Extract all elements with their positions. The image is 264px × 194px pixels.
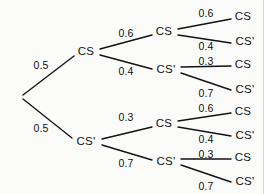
prob-stage1-lower: 0.5 — [34, 123, 49, 134]
prob-stage3-b1-lower: 0.4 — [199, 41, 214, 52]
prob-stage3-b3-lower: 0.4 — [199, 134, 214, 145]
node-stage2-csp-csp: CS' — [157, 156, 176, 168]
prob-stage3-b1-upper: 0.6 — [199, 8, 214, 19]
probability-tree-diagram: CS CS' CS CS' CS CS' CS CS' CS CS' CS CS… — [0, 0, 264, 194]
leaf-node-3: CS — [235, 59, 251, 71]
prob-stage3-b3-upper: 0.6 — [199, 103, 214, 114]
prob-stage2-csp-lower: 0.7 — [119, 158, 134, 169]
leaf-node-1: CS — [235, 11, 251, 23]
leaf-node-5: CS — [235, 106, 251, 118]
leaf-node-6: CS' — [236, 130, 255, 142]
node-stage1-cs: CS — [78, 46, 94, 58]
leaf-node-8: CS' — [236, 176, 255, 188]
node-stage1-csp: CS' — [77, 136, 96, 148]
prob-stage1-upper: 0.5 — [34, 60, 49, 71]
edge-s2-csp-cs-to-leaf5 — [178, 113, 231, 121]
prob-stage2-csp-upper: 0.3 — [119, 112, 134, 123]
edge-s2-cs-cs-to-leaf1 — [178, 19, 231, 29]
leaf-node-4: CS' — [236, 84, 255, 96]
node-stage2-cs-cs: CS — [156, 26, 172, 38]
leaf-node-7: CS — [235, 152, 251, 164]
prob-stage3-b4-upper: 0.3 — [199, 149, 214, 160]
node-stage2-csp-cs: CS — [156, 118, 172, 130]
prob-stage2-cs-upper: 0.6 — [119, 28, 134, 39]
prob-stage3-b2-lower: 0.7 — [199, 88, 214, 99]
leaf-node-2: CS' — [236, 36, 255, 48]
edge-s1-csp-to-s2-cs — [102, 127, 152, 139]
node-stage2-cs-csp: CS' — [157, 64, 176, 76]
prob-stage3-b2-upper: 0.3 — [199, 56, 214, 67]
prob-stage2-cs-lower: 0.4 — [119, 66, 134, 77]
prob-stage3-b4-lower: 0.7 — [199, 181, 214, 192]
